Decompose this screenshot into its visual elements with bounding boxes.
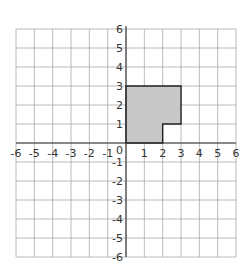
x-tick-label: -5 — [29, 147, 40, 160]
y-tick-label: -6 — [112, 251, 123, 264]
x-tick-label: 2 — [159, 147, 166, 160]
y-tick-label: -4 — [112, 213, 123, 226]
x-tick-label: 5 — [214, 147, 221, 160]
x-tick-label: 6 — [233, 147, 240, 160]
y-tick-label: 1 — [116, 118, 123, 131]
x-tick-label: -3 — [66, 147, 77, 160]
y-tick-label: -2 — [112, 175, 123, 188]
origin-label: 0 — [116, 144, 123, 157]
y-tick-label: -5 — [112, 232, 123, 245]
coordinate-grid: -6-5-4-3-2-1123456654321-1-2-3-4-5-60 — [0, 0, 246, 279]
y-tick-label: 5 — [116, 42, 123, 55]
y-tick-label: 4 — [116, 61, 123, 74]
l-shape-polygon — [126, 86, 181, 143]
x-tick-label: 4 — [196, 147, 203, 160]
x-tick-label: -6 — [11, 147, 22, 160]
x-tick-label: 3 — [178, 147, 185, 160]
x-tick-label: -2 — [84, 147, 95, 160]
y-tick-label: 2 — [116, 99, 123, 112]
y-tick-label: -3 — [112, 194, 123, 207]
x-tick-label: 1 — [141, 147, 148, 160]
y-tick-label: -1 — [112, 156, 123, 169]
y-tick-label: 6 — [116, 23, 123, 36]
x-tick-label: -4 — [47, 147, 58, 160]
y-tick-label: 3 — [116, 80, 123, 93]
